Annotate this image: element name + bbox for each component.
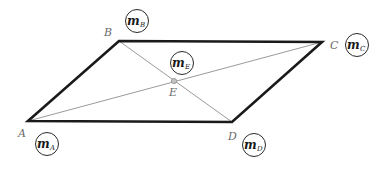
mass-symbol-c: m (347, 38, 360, 52)
mass-badge-a: m A (36, 133, 59, 156)
mass-symbol-e: m (172, 56, 185, 70)
center-point-e (171, 78, 176, 83)
mass-badge-d: m D (243, 134, 266, 157)
parallelogram-diagram: A B C D E m A m B m C m D m E (0, 0, 392, 173)
center-label-e: E (168, 86, 177, 99)
mass-subscript-d: D (256, 145, 263, 153)
mass-subscript-e: E (184, 63, 190, 71)
mass-symbol-d: m (244, 138, 257, 152)
mass-symbol-a: m (37, 137, 50, 151)
vertex-label-b: B (103, 26, 112, 39)
mass-subscript-a: A (49, 144, 55, 152)
vertex-label-a: A (17, 127, 26, 140)
mass-badge-e: m E (171, 52, 194, 75)
mass-subscript-c: C (360, 45, 366, 53)
mass-badge-c: m C (346, 34, 369, 57)
mass-badge-b: m B (126, 10, 149, 33)
mass-subscript-b: B (139, 21, 145, 29)
mass-symbol-b: m (127, 14, 140, 28)
vertex-label-c: C (330, 39, 339, 52)
vertex-label-d: D (227, 130, 237, 143)
